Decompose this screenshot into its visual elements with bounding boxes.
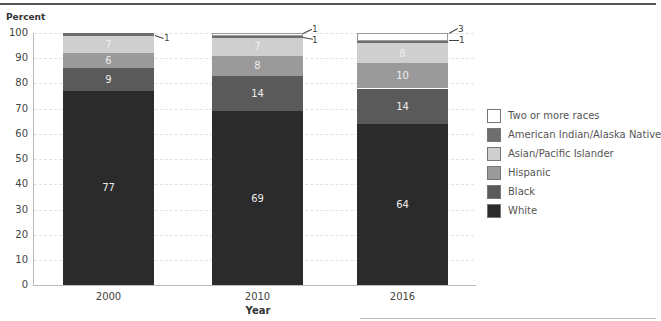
legend-label: Hispanic xyxy=(508,167,551,178)
x-tick-2010: 2010 xyxy=(212,291,303,302)
legend-label: White xyxy=(508,205,537,216)
segment-hispanic: 10 xyxy=(357,63,448,88)
bottom-rule xyxy=(360,318,656,319)
segment-asian: 8 xyxy=(357,43,448,63)
callout-2000-aian: 1 xyxy=(164,33,170,43)
callout-2010-two-or-more: 1 xyxy=(312,24,318,34)
y-tick: 10 xyxy=(0,254,28,265)
legend-item-hispanic: Hispanic xyxy=(487,163,661,182)
x-axis-label: Year xyxy=(233,305,283,316)
bar-2016: 8 10 14 64 xyxy=(357,33,448,285)
x-tick-2000: 2000 xyxy=(63,291,154,302)
legend-label: Asian/Pacific Islander xyxy=(508,148,614,159)
legend-swatch xyxy=(487,147,501,161)
legend-item-white: White xyxy=(487,201,661,220)
callout-arrow xyxy=(449,40,459,41)
bar-2000: 7 6 9 77 xyxy=(63,33,154,285)
legend-swatch xyxy=(487,204,501,218)
y-tick: 50 xyxy=(0,153,28,164)
legend-item-two-or-more: Two or more races xyxy=(487,106,661,125)
callout-2016-aian: 1 xyxy=(459,35,465,45)
y-tick: 30 xyxy=(0,204,28,215)
segment-black: 9 xyxy=(63,68,154,91)
y-axis xyxy=(33,33,34,285)
legend: Two or more races American Indian/Alaska… xyxy=(487,106,661,220)
segment-hispanic: 6 xyxy=(63,53,154,68)
y-tick: 40 xyxy=(0,178,28,189)
y-tick: 20 xyxy=(0,229,28,240)
legend-swatch xyxy=(487,166,501,180)
callout-2010-aian: 1 xyxy=(312,35,318,45)
y-tick: 100 xyxy=(0,27,28,38)
x-tick-2016: 2016 xyxy=(357,291,448,302)
callout-arrow xyxy=(155,35,164,39)
segment-two-or-more xyxy=(357,33,448,41)
legend-swatch xyxy=(487,109,501,123)
legend-label: Two or more races xyxy=(508,110,600,121)
legend-swatch xyxy=(487,128,501,142)
y-axis-label: Percent xyxy=(6,12,45,22)
y-tick: 70 xyxy=(0,103,28,114)
legend-label: Black xyxy=(508,186,535,197)
y-tick: 80 xyxy=(0,77,28,88)
segment-white: 64 xyxy=(357,124,448,285)
legend-item-asian: Asian/Pacific Islander xyxy=(487,144,661,163)
legend-item-american-indian: American Indian/Alaska Native xyxy=(487,125,661,144)
legend-swatch xyxy=(487,185,501,199)
y-tick: 0 xyxy=(0,279,28,290)
segment-asian: 7 xyxy=(212,38,303,56)
callout-2016-two-or-more: 3 xyxy=(458,24,464,34)
segment-white: 69 xyxy=(212,111,303,285)
bar-2010: 7 8 14 69 xyxy=(212,33,303,285)
y-tick: 60 xyxy=(0,128,28,139)
segment-hispanic: 8 xyxy=(212,56,303,76)
segment-black: 14 xyxy=(212,76,303,111)
y-tick: 90 xyxy=(0,52,28,63)
segment-asian: 7 xyxy=(63,36,154,54)
segment-white: 77 xyxy=(63,91,154,285)
legend-label: American Indian/Alaska Native xyxy=(508,129,661,140)
legend-item-black: Black xyxy=(487,182,661,201)
segment-black: 14 xyxy=(357,89,448,124)
x-axis xyxy=(33,285,476,286)
